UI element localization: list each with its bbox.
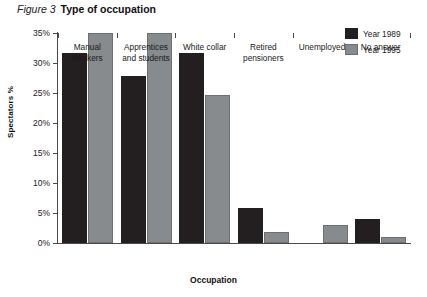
x-axis-line <box>57 243 411 244</box>
bar <box>147 33 172 243</box>
chart-legend: Year 1989Year 1995 <box>345 28 401 55</box>
figure-title: Type of occupation <box>61 3 156 15</box>
bar <box>323 225 348 243</box>
y-tick-label: 10% <box>33 178 50 188</box>
figure-number: Figure 3 <box>17 3 56 15</box>
x-category-label: Retiredpensioners <box>243 42 284 63</box>
legend-label: Year 1995 <box>363 45 401 55</box>
y-tick <box>53 93 58 94</box>
x-category-label: Unemployed <box>299 42 346 53</box>
legend-item: Year 1989 <box>345 28 401 39</box>
x-category-label: Apprenticesand students <box>122 42 170 63</box>
y-axis-title: Spectators % <box>6 86 15 138</box>
bar <box>121 76 146 243</box>
bar <box>238 208 263 243</box>
y-tick-label: 25% <box>33 88 50 98</box>
x-category-label: ManualWorkers <box>72 42 103 63</box>
x-axis-title: Occupation <box>0 275 427 285</box>
x-tick <box>410 33 411 38</box>
x-category-label: White collar <box>183 42 226 53</box>
x-tick <box>117 33 118 38</box>
bar <box>62 53 87 243</box>
legend-item: Year 1995 <box>345 44 401 55</box>
y-tick-label: 5% <box>38 208 50 218</box>
x-tick <box>234 33 235 38</box>
legend-swatch-icon <box>345 44 358 55</box>
y-tick <box>53 123 58 124</box>
plot-area: 0%5%10%15%20%25%30%35% ManualWorkersAppr… <box>58 33 410 243</box>
y-tick <box>53 153 58 154</box>
legend-label: Year 1989 <box>363 29 401 39</box>
y-tick-label: 15% <box>33 148 50 158</box>
x-tick <box>58 33 59 38</box>
y-tick-label: 35% <box>33 28 50 38</box>
legend-swatch-icon <box>345 28 358 39</box>
bar <box>179 53 204 243</box>
y-tick <box>53 213 58 214</box>
y-tick <box>53 183 58 184</box>
y-tick <box>53 243 58 244</box>
figure-caption: Figure 3 Type of occupation <box>17 3 156 15</box>
y-tick-label: 0% <box>38 238 50 248</box>
bar <box>381 237 406 243</box>
x-tick <box>175 33 176 38</box>
bar <box>88 33 113 243</box>
y-tick-label: 30% <box>33 58 50 68</box>
bar <box>355 219 380 243</box>
bar <box>264 232 289 243</box>
bar <box>205 95 230 243</box>
y-tick <box>53 63 58 64</box>
y-tick-label: 20% <box>33 118 50 128</box>
x-tick <box>293 33 294 38</box>
